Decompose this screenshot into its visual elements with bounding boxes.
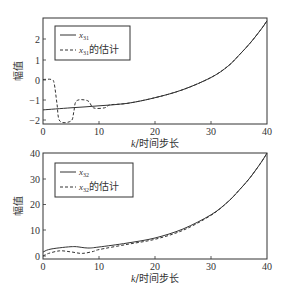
top-xtick-label: 20 — [150, 126, 160, 137]
top-ytick-label: −2 — [29, 115, 40, 126]
top-ytick-label: 0 — [35, 75, 40, 86]
top-xtick-label: 30 — [206, 126, 216, 137]
top-y-axis-title: 幅值 — [12, 61, 24, 81]
bottom-y-axis-title: 幅值 — [12, 196, 24, 216]
bottom-ytick-label: 20 — [30, 199, 40, 210]
top-legend: x31 x31的估计 — [55, 26, 130, 60]
bottom-xtick-label: 0 — [41, 261, 46, 272]
bottom-ytick-label: 40 — [30, 148, 40, 159]
bottom-ytick-label: 10 — [30, 225, 40, 236]
bottom-plot: 0 10 20 30 40 0 10 20 30 40 幅值 k/时间步长 x3… — [12, 148, 272, 284]
bottom-xtick-label: 20 — [150, 261, 160, 272]
top-xtick-label: 10 — [94, 126, 104, 137]
top-xtick-label: 40 — [262, 126, 272, 137]
bottom-y-ticks: 0 10 20 30 40 — [30, 148, 46, 262]
top-plot: −2 −1 0 1 2 0 10 20 30 40 幅值 k/时间步长 x31 … — [12, 18, 272, 149]
figure: −2 −1 0 1 2 0 10 20 30 40 幅值 k/时间步长 x31 … — [0, 0, 286, 301]
bottom-ytick-label: 30 — [30, 174, 40, 185]
bottom-legend: x32 x32的估计 — [55, 163, 133, 197]
bottom-xtick-label: 30 — [206, 261, 216, 272]
bottom-x-ticks: 0 10 20 30 40 — [41, 256, 273, 272]
top-xtick-label: 0 — [41, 126, 46, 137]
top-ytick-label: 2 — [35, 34, 40, 45]
bottom-xtick-label: 10 — [94, 261, 104, 272]
bottom-x-axis-title: k/时间步长 — [131, 272, 179, 284]
bottom-xtick-label: 40 — [262, 261, 272, 272]
top-x-ticks: 0 10 20 30 40 — [41, 121, 273, 137]
bottom-ytick-label: 0 — [35, 251, 40, 262]
top-ytick-label: −1 — [29, 95, 40, 106]
top-x-axis-title: k/时间步长 — [131, 137, 179, 149]
top-ytick-label: 1 — [35, 55, 40, 66]
